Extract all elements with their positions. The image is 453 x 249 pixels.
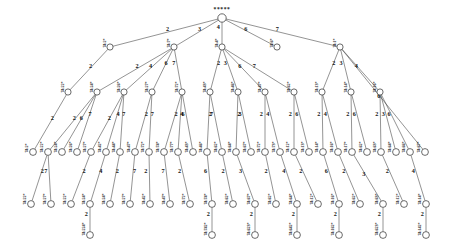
- tree-node[interactable]: [132, 149, 139, 156]
- tree-edge: [100, 49, 172, 91]
- tree-node[interactable]: [335, 149, 342, 156]
- tree-node[interactable]: [294, 232, 301, 239]
- tree-node[interactable]: [380, 232, 387, 239]
- tree-edge: [381, 95, 408, 149]
- tree-node[interactable]: [336, 201, 343, 208]
- node-label: 74:62*: [213, 142, 218, 153]
- tree-node[interactable]: [161, 149, 168, 156]
- tree-node[interactable]: [336, 232, 343, 239]
- tree-node[interactable]: [291, 89, 297, 95]
- tree-node[interactable]: [274, 44, 280, 50]
- tree-edge: [239, 95, 251, 149]
- node-label: 74:72*: [256, 142, 261, 153]
- tree-edge: [380, 95, 381, 149]
- tree-node[interactable]: [357, 201, 364, 208]
- tree-node[interactable]: [315, 201, 322, 208]
- tree-node[interactable]: [423, 232, 430, 239]
- tree-node[interactable]: [219, 44, 225, 50]
- tree-node[interactable]: [393, 149, 400, 156]
- tree-node[interactable]: [306, 149, 313, 156]
- edge-label: 2: [207, 210, 210, 217]
- tree-node[interactable]: [262, 89, 268, 95]
- tree-node[interactable]: [175, 149, 182, 156]
- tree-node[interactable]: [235, 89, 241, 95]
- tree-node[interactable]: [320, 149, 327, 156]
- edge-label: 2: [82, 167, 85, 174]
- edge-label: 7: [210, 110, 213, 117]
- tree-node[interactable]: [378, 149, 385, 156]
- tree-node[interactable]: [171, 44, 177, 50]
- tree-node[interactable]: [349, 149, 356, 156]
- tree-node[interactable]: [121, 89, 127, 95]
- tree-node[interactable]: [401, 201, 408, 208]
- tree-node[interactable]: [252, 232, 259, 239]
- tree-node[interactable]: [204, 149, 211, 156]
- edge-label: 2: [334, 210, 337, 217]
- tree-node[interactable]: [28, 201, 35, 208]
- tree-node[interactable]: [380, 201, 387, 208]
- tree-node[interactable]: [74, 149, 81, 156]
- tree-node[interactable]: [45, 149, 52, 156]
- node-label: 74:224*: [81, 223, 86, 236]
- tree-node[interactable]: [147, 201, 154, 208]
- tree-node[interactable]: [207, 89, 213, 95]
- tree-node[interactable]: [94, 89, 100, 95]
- tree-node[interactable]: [273, 201, 280, 208]
- root-node-label: *****: [214, 6, 231, 12]
- tree-node[interactable]: [348, 89, 354, 95]
- tree-node[interactable]: [319, 89, 325, 95]
- node-label: 74:64*: [288, 194, 293, 205]
- edge-label: 2: [332, 59, 335, 66]
- tree-node[interactable]: [252, 201, 259, 208]
- tree-edge: [64, 95, 96, 149]
- tree-node[interactable]: [149, 89, 155, 95]
- tree-edge: [322, 95, 323, 149]
- tree-node[interactable]: [127, 201, 134, 208]
- tree-node[interactable]: [262, 149, 269, 156]
- tree-node[interactable]: [179, 89, 185, 95]
- tree-node[interactable]: [248, 149, 255, 156]
- tree-node[interactable]: [87, 232, 94, 239]
- tree-node[interactable]: [167, 201, 174, 208]
- node-label: 74:742*: [203, 223, 208, 236]
- tree-node[interactable]: [337, 44, 343, 50]
- tree-node[interactable]: [230, 201, 237, 208]
- tree-node[interactable]: [68, 201, 75, 208]
- tree-node[interactable]: [107, 201, 114, 208]
- tree-node[interactable]: [294, 201, 301, 208]
- node-label: 74:142*: [417, 223, 422, 236]
- tree-node[interactable]: [218, 14, 226, 22]
- tree-node[interactable]: [88, 149, 95, 156]
- tree-node[interactable]: [422, 149, 429, 156]
- tree-node[interactable]: [209, 232, 216, 239]
- tree-node[interactable]: [219, 149, 226, 156]
- tree-edge: [266, 95, 279, 149]
- tree-node[interactable]: [30, 149, 37, 156]
- tree-edge: [93, 95, 123, 149]
- tree-node[interactable]: [187, 201, 194, 208]
- tree-edge: [323, 95, 337, 149]
- tree-edge: [50, 94, 95, 149]
- tree-node[interactable]: [103, 149, 110, 156]
- tree-node[interactable]: [59, 149, 66, 156]
- tree-node[interactable]: [407, 149, 414, 156]
- tree-node[interactable]: [48, 201, 55, 208]
- tree-node[interactable]: [87, 201, 94, 208]
- tree-node[interactable]: [190, 149, 197, 156]
- tree-node[interactable]: [146, 149, 153, 156]
- tree-node[interactable]: [364, 149, 371, 156]
- tree-node[interactable]: [117, 149, 124, 156]
- tree-node[interactable]: [209, 201, 216, 208]
- tree-node[interactable]: [291, 149, 298, 156]
- tree-node[interactable]: [277, 149, 284, 156]
- tree-node[interactable]: [65, 89, 71, 95]
- edge-label: 7: [151, 110, 154, 117]
- edge-label: 2: [89, 62, 92, 69]
- tree-node[interactable]: [107, 44, 113, 50]
- tree-node[interactable]: [423, 201, 430, 208]
- node-label: 74:72*: [140, 142, 145, 153]
- node-label: 74:12*: [395, 194, 400, 205]
- tree-node[interactable]: [377, 89, 383, 95]
- edge-label: 2: [108, 114, 111, 121]
- tree-node[interactable]: [233, 149, 240, 156]
